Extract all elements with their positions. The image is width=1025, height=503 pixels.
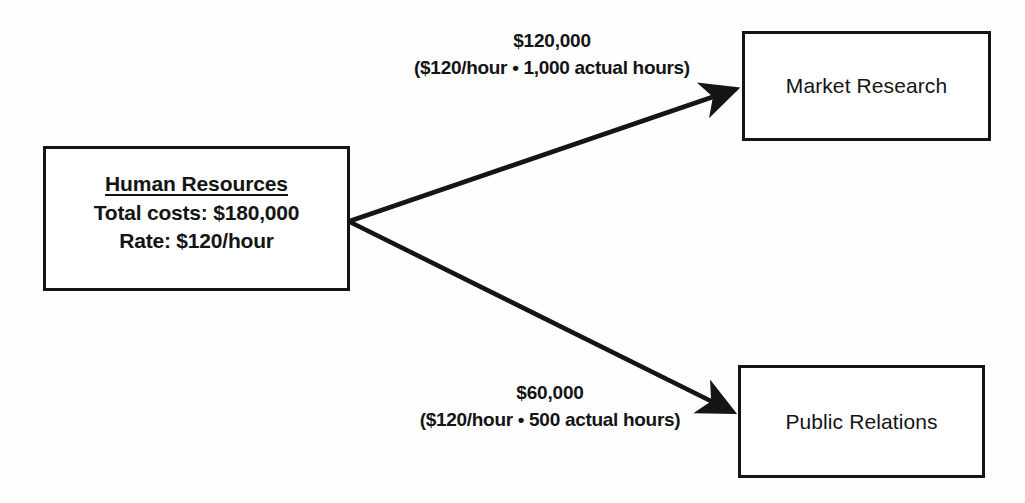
edge-label-public-relations: $60,000 ($120/hour • 500 actual hours) (390, 380, 710, 434)
diagram-canvas: Human Resources Total costs: $180,000 Ra… (0, 0, 1025, 503)
target-label-market-research: Market Research (786, 74, 947, 98)
target-department-box-market-research: Market Research (742, 31, 991, 141)
edge-label-market-research: $120,000 ($120/hour • 1,000 actual hours… (392, 28, 712, 82)
source-rate: Rate: $120/hour (119, 227, 274, 255)
source-department-title: Human Resources (105, 172, 288, 196)
source-department-box: Human Resources Total costs: $180,000 Ra… (43, 146, 350, 291)
source-total-costs: Total costs: $180,000 (94, 199, 300, 227)
target-label-public-relations: Public Relations (785, 410, 937, 434)
connector-to-market-research (350, 89, 736, 221)
edge-detail-public-relations: ($120/hour • 500 actual hours) (390, 407, 710, 434)
target-department-box-public-relations: Public Relations (738, 365, 985, 478)
edge-amount-market-research: $120,000 (392, 28, 712, 55)
edge-detail-market-research: ($120/hour • 1,000 actual hours) (392, 55, 712, 82)
edge-amount-public-relations: $60,000 (390, 380, 710, 407)
